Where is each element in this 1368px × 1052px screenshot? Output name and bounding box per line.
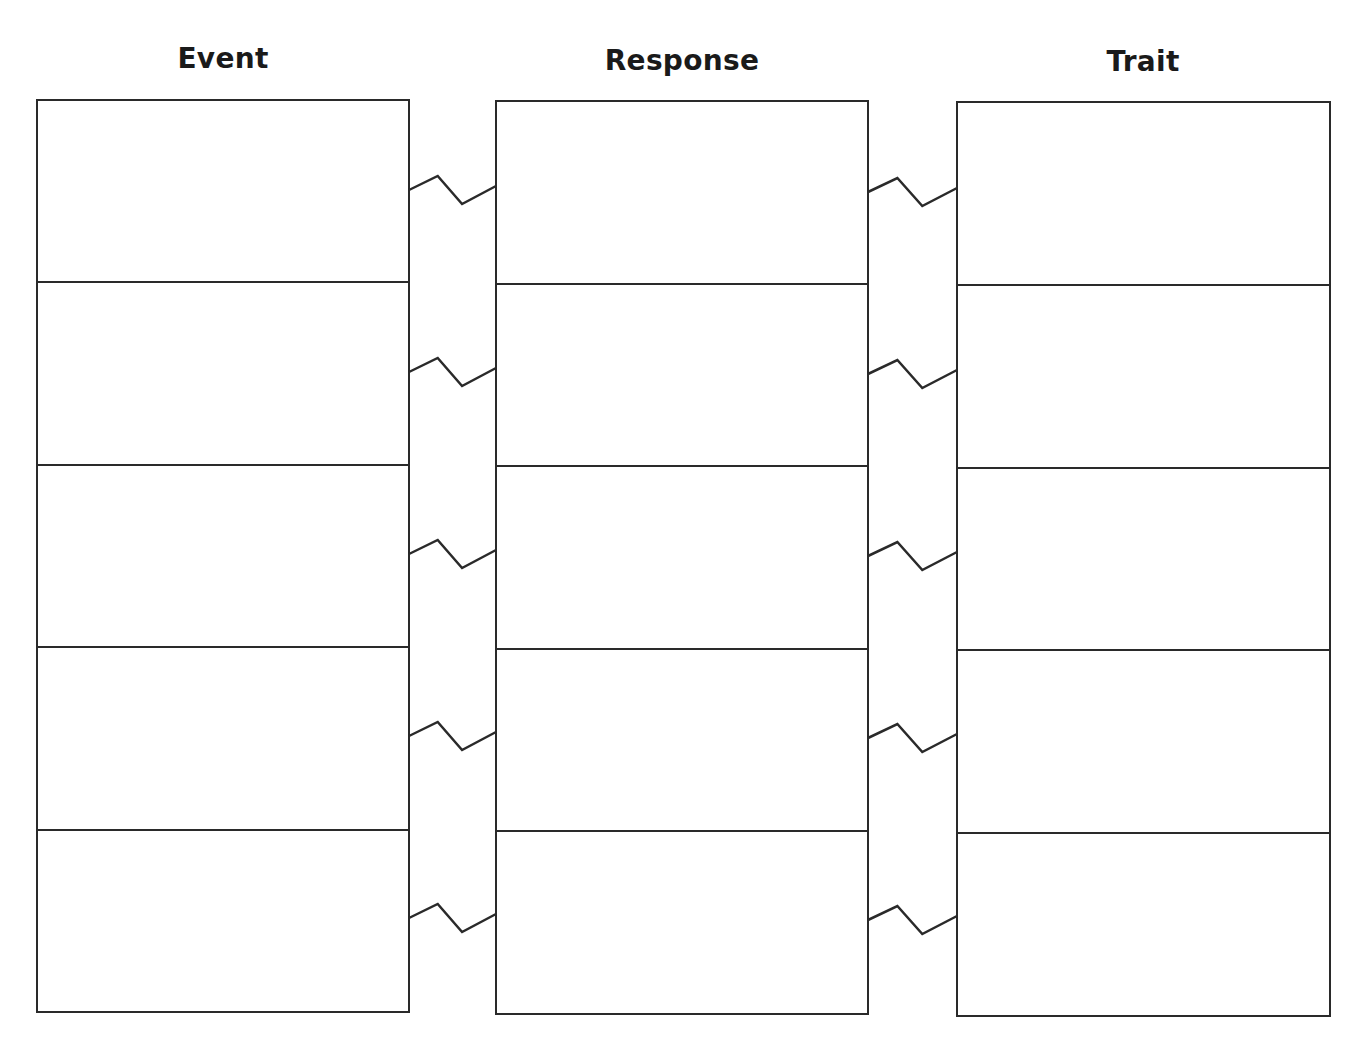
response-column: [495, 100, 869, 1015]
zigzag-connector-icon: [409, 176, 496, 204]
zigzag-connector-icon: [868, 906, 957, 934]
response-cell-1[interactable]: [497, 102, 867, 285]
trait-cell-2[interactable]: [958, 286, 1329, 469]
zigzag-connector-icon: [409, 722, 496, 750]
trait-cell-5[interactable]: [958, 834, 1329, 1015]
zigzag-connector-icon: [409, 358, 496, 386]
zigzag-connector-icon: [868, 542, 957, 570]
event-cell-1[interactable]: [38, 101, 408, 283]
zigzag-connector-icon: [409, 540, 496, 568]
trait-column: [956, 101, 1331, 1017]
zigzag-connector-icon: [409, 904, 496, 932]
event-cell-2[interactable]: [38, 283, 408, 465]
response-cell-5[interactable]: [497, 832, 867, 1013]
zigzag-connector-icon: [868, 360, 957, 388]
trait-cell-1[interactable]: [958, 103, 1329, 286]
response-cell-3[interactable]: [497, 467, 867, 650]
zigzag-connector-icon: [868, 724, 957, 752]
response-cell-4[interactable]: [497, 650, 867, 833]
response-cell-2[interactable]: [497, 285, 867, 468]
event-cell-4[interactable]: [38, 648, 408, 830]
zigzag-connector-icon: [868, 178, 957, 206]
event-column: [36, 99, 410, 1013]
event-cell-3[interactable]: [38, 466, 408, 648]
heading-response: Response: [496, 44, 868, 77]
trait-cell-4[interactable]: [958, 651, 1329, 834]
heading-event: Event: [37, 42, 409, 75]
trait-cell-3[interactable]: [958, 469, 1329, 652]
event-cell-5[interactable]: [38, 831, 408, 1011]
heading-trait: Trait: [957, 45, 1329, 78]
